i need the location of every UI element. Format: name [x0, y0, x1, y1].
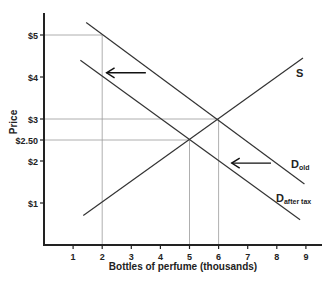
y-axis-label: Price: [8, 109, 19, 134]
axes: [43, 13, 322, 246]
x-tick-label: 9: [303, 252, 308, 262]
shift-arrows: [107, 68, 271, 168]
reference-lines: [44, 35, 219, 245]
x-axis-label: Bottles of perfume (thousands): [109, 261, 257, 272]
series-labels: SDoldDafter tax: [276, 67, 311, 205]
supply-demand-chart: 123456789$1$2$2.50$3$4$5 SDoldDafter tax…: [0, 0, 329, 285]
x-tick-label: 2: [100, 252, 105, 262]
y-tick-label: $5: [28, 31, 38, 41]
demand-after-tax-label: Dafter tax: [276, 192, 311, 205]
y-tick-label: $2: [28, 157, 38, 167]
x-tick-label: 8: [274, 252, 279, 262]
axis-ticks: 123456789$1$2$2.50$3$4$5: [15, 31, 308, 263]
y-tick-label: $4: [28, 73, 38, 83]
series-lines: [80, 22, 304, 219]
y-tick-label: $1: [28, 199, 38, 209]
y-tick-label: $3: [28, 115, 38, 125]
demand-old-label: Dold: [291, 158, 309, 171]
series-line-s: [83, 58, 303, 216]
supply-label: S: [296, 67, 303, 79]
x-tick-label: 1: [71, 252, 76, 262]
series-line-d-old: [86, 22, 304, 184]
y-tick-label: $2.50: [15, 136, 38, 146]
